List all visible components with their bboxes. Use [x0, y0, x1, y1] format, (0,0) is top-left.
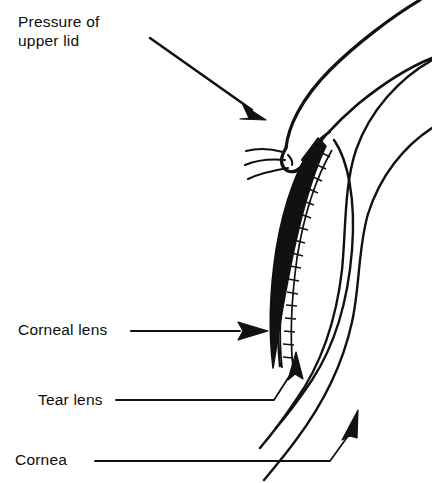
eyelash-1: [246, 149, 283, 152]
eyelash-2: [245, 160, 285, 165]
cornea-leader-line: [95, 436, 348, 461]
tear-lens-leader-line: [116, 372, 292, 400]
eye-contact-lens-diagram: Pressure ofupper lid Corneal lens Tear l…: [0, 0, 432, 483]
label-cornea: Cornea: [15, 450, 67, 469]
pressure-leader-line: [150, 38, 252, 110]
tear-lens-arrowhead: [288, 352, 303, 380]
cornea-arrowhead: [342, 410, 358, 440]
eyelash-3: [248, 168, 288, 179]
lid-tip-notch: [288, 155, 292, 165]
label-pressure-of-upper-lid: Pressure ofupper lid: [18, 12, 99, 50]
label-tear-lens: Tear lens: [38, 390, 103, 409]
label-pressure-line-1: Pressure of: [18, 13, 99, 30]
label-corneal-lens: Corneal lens: [18, 320, 107, 339]
corneal-lens-arrowhead: [238, 322, 268, 340]
diagram-artwork: [0, 0, 432, 483]
label-pressure-line-2: upper lid: [18, 32, 79, 49]
pressure-arrowhead: [240, 105, 266, 120]
